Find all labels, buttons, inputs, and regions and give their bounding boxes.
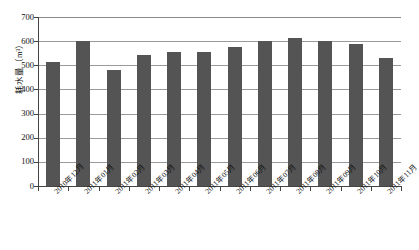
x-axis-tick-label: 2011年10月 [356,163,389,196]
x-axis-tick-label: 2011年01月 [83,163,116,196]
x-axis-tick-mark [401,186,402,191]
x-axis-tick-mark [220,186,221,191]
x-axis-tick-mark [250,186,251,191]
x-axis-tick-label: 2011年05月 [204,163,237,196]
x-axis-tick-mark [189,186,190,191]
x-axis-tick-label: 2011年08月 [295,163,328,196]
x-axis-tick-mark [341,186,342,191]
x-axis-tick-mark [280,186,281,191]
x-axis-tick-label: 2011年03月 [144,163,177,196]
x-axis-tick-label: 2011年11月 [386,163,419,196]
x-axis-tick-label: 2011年06月 [235,163,268,196]
x-axis-tick-mark [38,186,39,191]
x-axis-tick-label: 2011年09月 [325,163,358,196]
x-axis-tick-mark [68,186,69,191]
x-axis-tick-label: 2011年04月 [174,163,207,196]
x-axis-tick-label: 2011年07月 [265,163,298,196]
x-axis-tick-label: 2010年12月 [53,163,86,196]
x-axis-tick-mark [310,186,311,191]
x-axis-tick-label: 2011年02月 [114,163,147,196]
x-axis-tick-mark [99,186,100,191]
x-axis-tick-mark [129,186,130,191]
x-axis-tick-mark [371,186,372,191]
x-axis-tick-mark [159,186,160,191]
